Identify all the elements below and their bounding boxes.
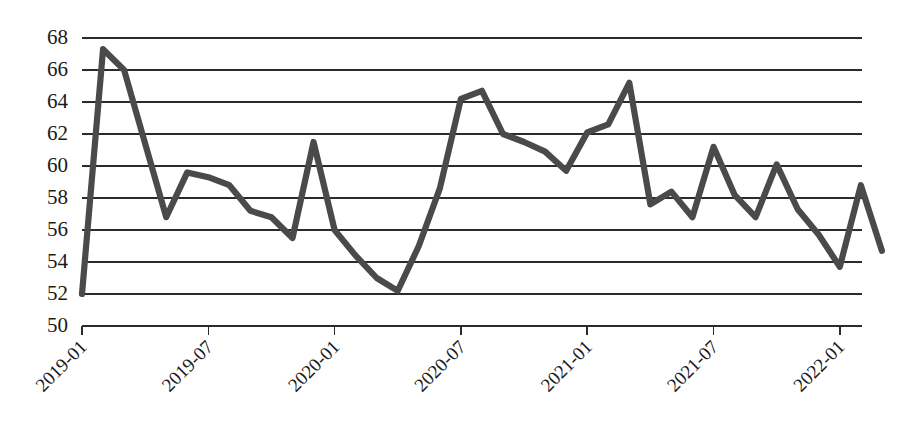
- y-tick-label-60: 60: [47, 153, 68, 177]
- x-tick-label-2020-07: 2020-07: [410, 336, 470, 396]
- x-tick-label-2021-07: 2021-07: [663, 336, 723, 396]
- y-tick-label-64: 64: [47, 89, 69, 113]
- y-tick-label-56: 56: [47, 217, 68, 241]
- y-tick-label-66: 66: [47, 57, 68, 81]
- chart-canvas: 68666462605856545250 2019-012019-072020-…: [0, 0, 899, 438]
- series-line-1: [82, 49, 882, 294]
- y-tick-label-50: 50: [47, 313, 68, 337]
- x-axis-tick-labels: 2019-012019-072020-012020-072021-012021-…: [31, 336, 848, 396]
- x-tick-label-2022-01: 2022-01: [789, 336, 849, 396]
- gridlines: [82, 38, 862, 326]
- x-tick-label-2019-01: 2019-01: [31, 336, 91, 396]
- y-tick-label-68: 68: [47, 25, 68, 49]
- x-tick-label-2021-01: 2021-01: [536, 336, 596, 396]
- x-axis-ticks: [82, 326, 840, 335]
- y-tick-label-58: 58: [47, 185, 68, 209]
- y-tick-label-54: 54: [47, 249, 69, 273]
- data-series: [82, 49, 882, 294]
- x-tick-label-2019-07: 2019-07: [157, 336, 217, 396]
- line-chart: 68666462605856545250 2019-012019-072020-…: [0, 0, 899, 438]
- y-axis-tick-labels: 68666462605856545250: [47, 25, 69, 337]
- y-tick-label-52: 52: [47, 281, 68, 305]
- x-tick-label-2020-01: 2020-01: [284, 336, 344, 396]
- y-tick-label-62: 62: [47, 121, 68, 145]
